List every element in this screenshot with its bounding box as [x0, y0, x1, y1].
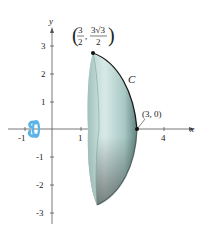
svg-text:2: 2: [96, 37, 101, 47]
x-tick-4: 4: [161, 133, 166, 143]
svg-text:3: 3: [78, 25, 83, 35]
point-3-0-leader: [138, 119, 145, 128]
y-tick-neg3: -3: [36, 208, 44, 218]
y-axis-label: y: [48, 16, 53, 26]
y-tick-3: 3: [41, 41, 46, 51]
y-tick-2: 2: [41, 69, 46, 79]
point-top: [91, 51, 95, 55]
point-label-top: ( 3 2 , 3√3 2 ): [72, 24, 115, 47]
x-axis-label: x: [189, 124, 194, 134]
curve-label: C: [128, 73, 136, 85]
svg-text:,: ,: [85, 31, 87, 41]
x-tick-1: 1: [78, 133, 83, 143]
y-tick-neg2: -2: [36, 180, 44, 190]
y-tick-neg1: -1: [36, 152, 44, 162]
x-tick-neg1: -1: [18, 133, 26, 143]
diagram-canvas: -1 1 4 x y 3 2 1 -1 -2 -3 C (3, 0) ( 3 2…: [0, 0, 205, 229]
y-axis: [50, 27, 54, 224]
svg-text:2: 2: [78, 37, 83, 47]
y-tick-1: 1: [41, 97, 46, 107]
svg-text:3√3: 3√3: [91, 25, 105, 35]
point-label-3-0: (3, 0): [142, 109, 162, 119]
svg-text:): ): [108, 24, 115, 47]
